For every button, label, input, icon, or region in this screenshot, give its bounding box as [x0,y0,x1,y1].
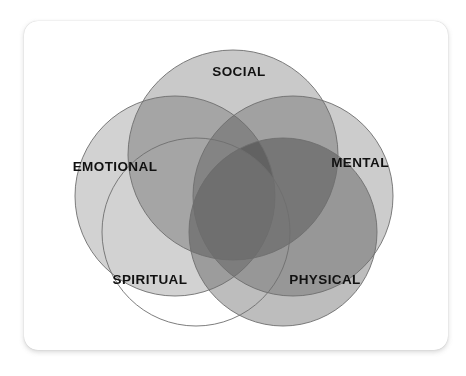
venn-label-physical: PHYSICAL [289,272,360,287]
venn-label-spiritual: SPIRITUAL [113,272,188,287]
venn-diagram-page: Five Dimensions of Wellness Venn Diagram [0,0,466,376]
venn-label-mental: MENTAL [331,155,389,170]
venn-label-social: SOCIAL [212,64,265,79]
venn-diagram-svg: Five Dimensions of Wellness Venn Diagram [0,0,466,376]
venn-label-emotional: EMOTIONAL [73,159,158,174]
